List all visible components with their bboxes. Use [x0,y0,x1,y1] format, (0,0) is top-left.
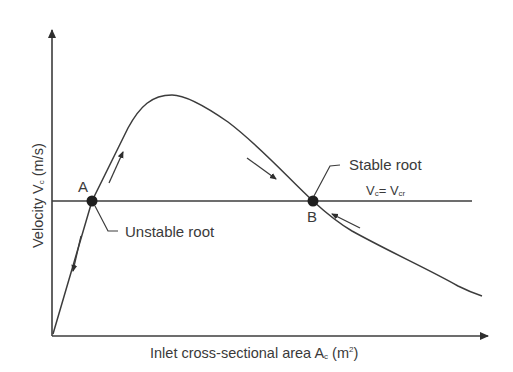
stable-root-leader [314,165,340,196]
arrow-down-left-icon [73,236,81,271]
threshold-label: Vc= Vcr [366,183,406,198]
x-axis-label: Inlet cross-sectional area Ac (m2) [150,345,358,361]
velocity-curve [53,95,482,334]
unstable-root-leader [95,206,118,231]
stability-diagram: A B Unstable root Stable root Vc= Vcr In… [0,0,513,372]
arrow-up-right-icon [109,152,123,183]
point-a-label: A [78,178,88,195]
point-a-marker [87,196,98,207]
y-axis-label: Velocity Vc (m/s) [30,143,46,248]
point-b-marker [308,196,319,207]
point-b-label: B [307,208,317,225]
unstable-root-annotation: Unstable root [125,223,215,240]
stable-root-annotation: Stable root [349,156,422,173]
